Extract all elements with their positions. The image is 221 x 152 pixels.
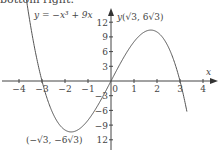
axes (2, 8, 218, 150)
y-tick-label: −6 (95, 106, 109, 116)
x-axis-label: x (206, 67, 211, 77)
x-tick-label: 1 (131, 84, 137, 94)
x-axis-arrow-icon (210, 78, 218, 84)
x-tick-label: −1 (81, 84, 94, 94)
x-tick-label: 0 (112, 84, 118, 94)
min-point-label: (−√3, −6√3) (26, 135, 82, 145)
x-tick-label: −3 (35, 84, 49, 94)
y-tick-label: −9 (95, 121, 109, 131)
y-tick-label: 6 (102, 47, 108, 57)
cubic-function-graph: −4−3−2−10123412963−3−6−912xyy = −x³ + 9x… (0, 0, 221, 152)
x-tick-label: 3 (177, 84, 183, 94)
y-tick-label: −3 (95, 91, 109, 101)
max-point-label: (√3, 6√3) (122, 12, 163, 22)
y-tick-label: 3 (102, 62, 108, 72)
y-tick-label: 9 (102, 32, 108, 42)
y-tick-label: 12 (97, 135, 108, 145)
x-tick-label: 4 (200, 84, 206, 94)
x-tick-label: 2 (154, 84, 160, 94)
x-tick-label: −4 (12, 84, 26, 94)
x-tick-label: −2 (58, 84, 71, 94)
y-tick-label: 12 (97, 18, 108, 28)
y-axis-arrow-icon (108, 8, 114, 16)
equation-label: y = −x³ + 9x (33, 10, 93, 20)
